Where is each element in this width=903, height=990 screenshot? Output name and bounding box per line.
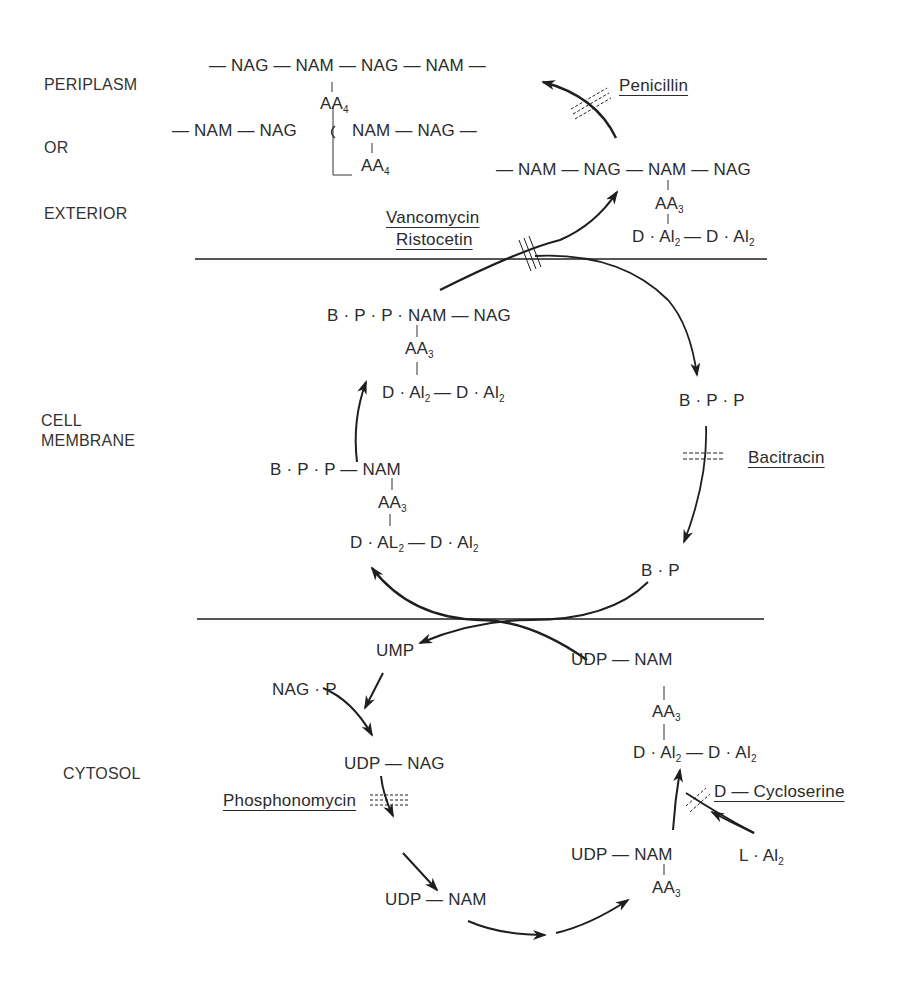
diagram-lines <box>0 0 903 990</box>
dephosphorylation-arrow <box>684 426 706 542</box>
amino-acid-addition-arrow-2 <box>556 900 628 933</box>
bp-return-arrow <box>420 582 648 643</box>
inhibitor-phosphonomycin: Phosphonomycin <box>223 792 356 809</box>
ump-arrow <box>365 673 383 708</box>
nascent-chain: — NAM — NAG — NAM — NAG <box>496 161 751 178</box>
inhibitor-bacitracin: Bacitracin <box>748 449 825 466</box>
nascent-chain-dal-2: — D · Al2 <box>684 228 755 248</box>
lipid-ii: B · P · P · NAM — NAG <box>327 307 511 324</box>
nascent-chain-peptide: AA3 <box>655 195 684 215</box>
dipeptide-addition-arrow <box>673 770 680 830</box>
udp-nag: UDP — NAG <box>344 755 445 772</box>
lipid-ii-peptide: AA3 <box>405 340 434 360</box>
nascent-chain-dal-1: D · Al2 <box>632 228 681 248</box>
release-arrow <box>535 256 697 375</box>
ump: UMP <box>376 642 414 659</box>
crosslinked-chain-2-right: NAM — NAG — <box>352 122 477 139</box>
lipid-i-dal-2: — D · Al2 <box>408 534 479 554</box>
bactoprenol-pyrophosphate: B · P · P <box>679 392 745 409</box>
udp-nam: UDP — NAM <box>385 891 487 908</box>
region-label-or: OR <box>44 140 68 156</box>
udp-nam-pentapeptide-dal-1: D · Al2 <box>633 744 682 764</box>
chain-1-peptide: AA4 <box>320 95 349 115</box>
region-label-cell: CELL <box>41 413 82 429</box>
peptidoglycan-synthesis-diagram: PERIPLASM OR EXTERIOR CELL MEMBRANE CYTO… <box>0 0 903 990</box>
udp-nam-aa3-peptide: AA3 <box>652 879 681 899</box>
bactoprenol-phosphate: B · P <box>641 562 680 579</box>
phosphonomycin-arrow-1 <box>381 776 393 816</box>
nag-addition-arrow <box>356 382 366 462</box>
nag-phosphate: NAG · P <box>272 681 337 698</box>
lipid-i-dal-1: D · AL2 <box>350 534 404 554</box>
inhibitor-d-cycloserine: D — Cycloserine <box>714 783 845 800</box>
chain-2-peptide: AA4 <box>361 157 390 177</box>
inhibitor-vancomycin: Vancomycin <box>386 209 479 226</box>
bacitracin-block-icon <box>683 453 723 459</box>
crosslinked-chain-1: — NAG — NAM — NAG — NAM — <box>209 57 486 74</box>
lipid-ii-dal-1: D · Al2 <box>382 384 431 404</box>
inhibitor-penicillin: Penicillin <box>619 77 688 94</box>
inhibitor-ristocetin: Ristocetin <box>396 231 473 248</box>
region-label-cytosol: CYTOSOL <box>63 766 141 782</box>
l-alanine: L · Al2 <box>739 847 784 867</box>
amino-acid-addition-arrow-1 <box>468 921 545 935</box>
lipid-ii-dal-2: — D · Al2 <box>434 384 505 404</box>
region-label-membrane: MEMBRANE <box>41 433 135 449</box>
udp-nam-pentapeptide: UDP — NAM <box>571 651 673 668</box>
lipid-i: B · P · P — NAM <box>270 461 401 478</box>
lipid-i-peptide: AA3 <box>378 494 407 514</box>
phosphonomycin-block-icon <box>370 795 410 805</box>
region-label-exterior: EXTERIOR <box>44 206 127 222</box>
udp-nam-pentapeptide-aa: AA3 <box>652 703 681 723</box>
udp-nam-aa3: UDP — NAM <box>571 846 673 863</box>
phosphonomycin-arrow-2 <box>403 853 437 890</box>
region-label-periplasm: PERIPLASM <box>44 77 137 93</box>
udp-nam-pentapeptide-dal-2: — D · Al2 <box>686 744 757 764</box>
penicillin-block-icon <box>571 88 611 119</box>
crosslinked-chain-2-left: — NAM — NAG <box>172 122 297 139</box>
